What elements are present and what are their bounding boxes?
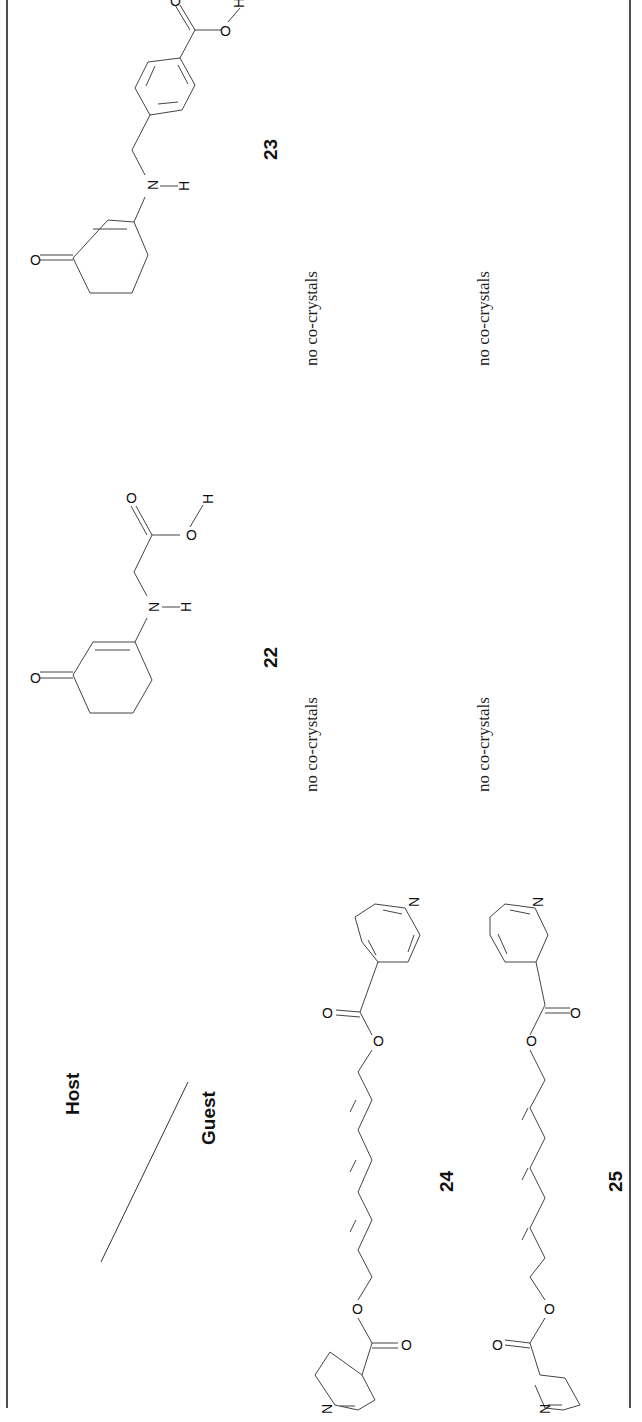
atom-n: N	[319, 1404, 335, 1414]
atom-o: O	[526, 1033, 537, 1049]
cell-22-24: no co-crystals	[302, 697, 322, 792]
structure-25	[490, 904, 580, 1410]
atom-o: O	[186, 527, 197, 543]
structure-24	[315, 904, 420, 1410]
atom-n: N	[146, 602, 162, 612]
guest-label-25: 25	[605, 1171, 627, 1192]
atom-labels-23: O N H O O H	[30, 0, 247, 268]
atom-o: O	[170, 0, 181, 9]
header-guest-label: Guest	[198, 1091, 220, 1145]
atom-labels-22: O N H O O H	[30, 490, 216, 686]
atom-o: O	[220, 23, 231, 39]
atom-o: O	[352, 1301, 363, 1317]
atom-n: N	[406, 897, 422, 907]
atom-n: N	[530, 897, 546, 907]
atom-n: N	[537, 1404, 553, 1414]
atom-o: O	[322, 1005, 333, 1021]
header-host-label: Host	[62, 1073, 84, 1115]
atom-h: H	[178, 602, 194, 612]
atom-o: O	[30, 252, 41, 268]
atom-o: O	[570, 1005, 581, 1021]
host-label-23: 23	[260, 139, 282, 160]
atom-n: N	[145, 180, 161, 190]
atom-labels-24: N O O O O N	[319, 897, 422, 1414]
header-diagonal-divider	[101, 1082, 188, 1262]
atom-o: O	[492, 1337, 503, 1353]
atom-h: H	[231, 0, 247, 8]
cell-22-25: no co-crystals	[474, 697, 494, 792]
host-guest-table: O N H O O H O N H O O H	[0, 0, 642, 1422]
atom-h: H	[176, 181, 192, 191]
atom-o: O	[126, 490, 137, 506]
guest-label-24: 24	[436, 1171, 458, 1192]
atom-o: O	[30, 670, 41, 686]
atom-o: O	[373, 1033, 384, 1049]
atom-h: H	[200, 494, 216, 504]
structure-23	[40, 5, 240, 293]
cell-23-24: no co-crystals	[302, 271, 322, 366]
atom-o: O	[401, 1337, 412, 1353]
host-label-22: 22	[260, 647, 282, 668]
atom-o: O	[544, 1301, 555, 1317]
cell-23-25: no co-crystals	[474, 271, 494, 366]
